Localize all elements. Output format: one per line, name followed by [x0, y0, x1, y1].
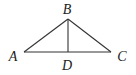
- label-b: B: [63, 2, 72, 17]
- segment-ab: [24, 19, 68, 52]
- label-c: C: [117, 49, 127, 64]
- triangle-diagram: A B C D: [0, 0, 136, 75]
- label-a: A: [8, 49, 18, 64]
- segment-bc: [68, 19, 111, 52]
- label-d: D: [61, 58, 72, 73]
